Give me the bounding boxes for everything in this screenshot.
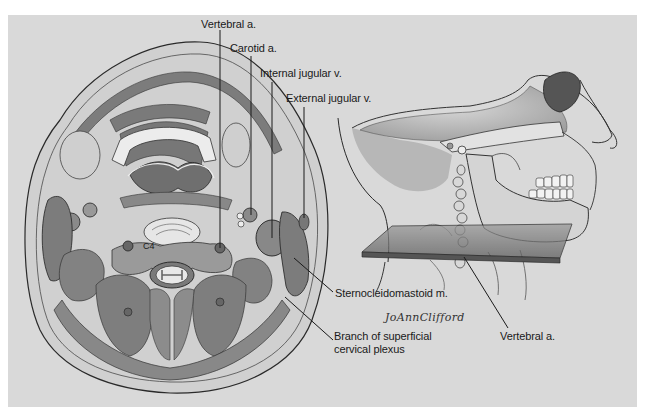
label-c4-vertebra: C4 (143, 240, 154, 253)
neck-cross-section (25, 42, 328, 393)
artist-signature: JoAnnClifford (385, 311, 465, 324)
label-vertebral-artery-right: Vertebral a. (500, 330, 555, 343)
anatomy-illustration (0, 0, 645, 414)
lateral-skull-view (338, 72, 617, 300)
label-branch-line2: cervical plexus (334, 343, 405, 356)
label-carotid-artery: Carotid a. (230, 42, 277, 55)
label-internal-jugular-vein: Internal jugular v. (260, 67, 342, 80)
label-sternocleidomastoid: Sternocleidomastoid m. (335, 287, 448, 300)
teeth (529, 175, 573, 199)
label-vertebral-artery-top: Vertebral a. (201, 18, 256, 31)
label-external-jugular-vein: External jugular v. (286, 92, 371, 105)
label-branch-line1: Branch of superficial (334, 330, 432, 343)
